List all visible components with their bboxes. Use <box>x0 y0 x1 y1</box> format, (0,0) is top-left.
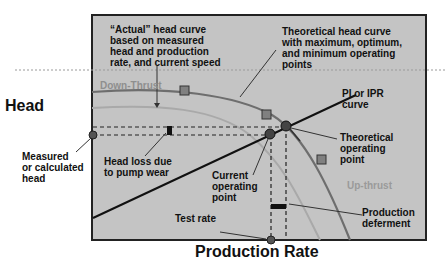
test-rate-annotation: Test rate <box>175 213 216 224</box>
measured-head-annotation: Measured or calculated head <box>22 151 84 184</box>
current-operating-point <box>265 129 275 139</box>
theoretical-curve-annotation: Theoretical head curve with maximum, opt… <box>282 26 402 70</box>
measured-head-point <box>89 131 97 139</box>
down-thrust-label: Down-Thrust <box>100 80 162 91</box>
production-deferment-bar <box>271 204 286 209</box>
max-point-marker <box>180 86 189 95</box>
production-deferment-annotation: Production deferment <box>362 207 415 229</box>
theoretical-point-annotation: Theoretical operating point <box>340 132 393 165</box>
actual-curve-annotation: “Actual” head curve based on measured he… <box>110 24 221 68</box>
current-point-annotation: Current operating point <box>212 170 258 203</box>
up-thrust-label: Up-thrust <box>347 180 392 191</box>
head-loss-annotation: Head loss due to pump wear <box>104 156 172 178</box>
x-axis-label: Production Rate <box>195 243 319 261</box>
y-axis-label: Head <box>5 97 44 115</box>
measured-head-leader <box>76 138 91 152</box>
opt-point-marker <box>262 110 271 119</box>
pi-ipr-annotation: PI or IPR curve <box>342 88 384 110</box>
min-point-marker <box>317 155 326 164</box>
head-loss-bar <box>167 126 172 135</box>
